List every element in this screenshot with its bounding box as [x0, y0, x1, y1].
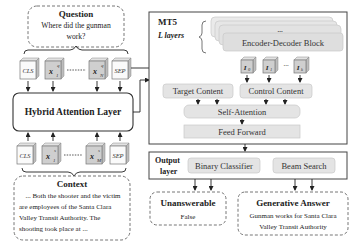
question-token-xn: x q N	[89, 58, 108, 79]
mt5-box: MT5 L layers ... Encoder-Decoder Block I…	[149, 12, 347, 144]
context-brace	[22, 168, 126, 176]
question-token-x1: x q 1	[45, 58, 64, 79]
generative-answer-line2: Valley Transit Authority	[259, 223, 327, 231]
question-title: Question	[59, 9, 94, 19]
svg-text:x: x	[89, 152, 94, 161]
arrow-hybrid-to-mt5	[133, 80, 149, 112]
question-token-sep: SEP	[112, 58, 131, 79]
context-token-cls: CLS	[17, 143, 36, 164]
architecture-diagram: Question Where did the gunman work? CLS …	[0, 0, 353, 246]
unanswerable-value: False	[181, 213, 196, 221]
generative-answer-title: Generative Answer	[256, 198, 330, 208]
svg-text:N: N	[99, 73, 104, 78]
feed-forward-label: Feed Forward	[218, 127, 266, 137]
question-text-line2: work?	[67, 32, 87, 41]
svg-text:I: I	[296, 64, 300, 72]
encoder-decoder-block-label: Encoder-Decoder Block	[242, 38, 325, 48]
svg-text:1: 1	[56, 73, 59, 78]
generative-answer-line1: Gunman works for Santa Clara	[249, 212, 337, 220]
encoder-block-ellipsis: ...	[277, 26, 283, 34]
beam-search-label: Beam Search	[281, 161, 327, 171]
svg-text:x: x	[48, 67, 53, 76]
output-layer-title-line2: layer	[160, 167, 178, 176]
svg-text:SEP: SEP	[114, 67, 125, 74]
svg-text:s: s	[54, 148, 56, 153]
control-token-i1: I 1	[263, 57, 278, 73]
context-line: ... Both the shooter and the victim	[25, 192, 121, 200]
mt5-layers-label: L layers	[157, 31, 184, 40]
svg-text:x: x	[45, 152, 50, 161]
target-content-label: Target Content	[173, 86, 224, 96]
svg-text:M: M	[96, 158, 102, 163]
unanswerable-box: Unanswerable False	[150, 192, 226, 225]
generative-answer-box: Generative Answer Gunman works for Santa…	[238, 192, 348, 235]
control-token-ik: I k	[294, 57, 309, 73]
context-token-sep: SEP	[110, 143, 129, 164]
output-layer-box: Output layer Binary Classifier Beam Sear…	[149, 152, 347, 179]
svg-text:I: I	[243, 64, 247, 72]
control-token-ellipsis: ...	[283, 60, 289, 68]
control-content-label: Control Content	[248, 86, 304, 96]
hybrid-attention-layer: Hybrid Attention Layer	[13, 93, 133, 131]
context-token-x1: x s 1	[42, 143, 61, 164]
svg-text:CLS: CLS	[22, 67, 34, 74]
svg-text:I: I	[265, 64, 269, 72]
context-token-xm: x s M	[86, 143, 105, 164]
svg-text:1: 1	[53, 158, 56, 163]
context-line: shooting took place at ...	[19, 225, 88, 233]
svg-text:x: x	[92, 67, 97, 76]
svg-text:CLS: CLS	[19, 152, 31, 159]
svg-text:1: 1	[270, 67, 272, 72]
encoder-decoder-stack: ... Encoder-Decoder Block	[211, 17, 343, 51]
question-tokens-row: CLS x q 1 x q N SEP	[20, 58, 131, 79]
question-box: Question Where did the gunman work?	[28, 6, 124, 47]
unanswerable-title: Unanswerable	[160, 198, 215, 208]
hybrid-attention-label: Hybrid Attention Layer	[25, 107, 122, 117]
context-title: Context	[57, 179, 88, 189]
context-line: Valley Transit Authority. The	[19, 214, 100, 222]
output-layer-title-line1: Output	[155, 156, 180, 165]
context-tokens-row: CLS x s 1 x s M SEP	[17, 143, 129, 164]
question-token-cls: CLS	[20, 58, 39, 79]
svg-text:s: s	[98, 148, 100, 153]
question-text-line1: Where did the gunman	[41, 21, 111, 30]
context-line: are employees of the Santa Clara	[19, 203, 112, 211]
binary-classifier-label: Binary Classifier	[195, 161, 253, 171]
svg-text:SEP: SEP	[112, 152, 123, 159]
control-token-i0: I 0	[241, 57, 256, 73]
mt5-title: MT5	[158, 17, 177, 27]
self-attention-label: Self-Attention	[218, 107, 267, 117]
context-box: Context ... Both the shooter and the vic…	[14, 176, 130, 240]
